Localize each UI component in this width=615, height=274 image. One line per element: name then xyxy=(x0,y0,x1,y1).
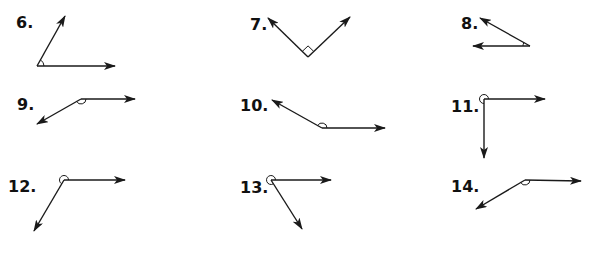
angle-figure-13 xyxy=(267,176,332,230)
angle-figure-6 xyxy=(37,16,115,66)
ray-arrow xyxy=(37,16,65,66)
problem-number-8: 8. xyxy=(461,16,478,32)
problem-number-10: 10. xyxy=(240,98,268,114)
angle-arc-marker xyxy=(318,123,327,128)
problem-number-13: 13. xyxy=(240,180,268,196)
angle-diagrams-canvas xyxy=(0,0,615,274)
angle-arc-marker xyxy=(521,180,530,185)
ray-arrow xyxy=(308,17,350,57)
angle-exercise-sheet: 6. 7. 8. 9. 10. 11. 12. 13. 14. xyxy=(0,0,615,274)
angle-figure-9 xyxy=(37,99,135,124)
ray-arrow xyxy=(272,100,322,128)
angle-figure-8 xyxy=(473,18,530,46)
ray-arrow xyxy=(480,18,530,46)
angle-figure-11 xyxy=(480,95,546,159)
problem-number-12: 12. xyxy=(8,179,36,195)
ray-arrow xyxy=(476,180,525,209)
angle-figure-12 xyxy=(34,176,125,231)
ray-arrow xyxy=(268,18,308,57)
ray-arrow xyxy=(271,180,302,229)
problem-number-7: 7. xyxy=(250,17,267,33)
problem-number-6: 6. xyxy=(16,15,33,31)
angle-arc-marker xyxy=(77,99,86,104)
ray-arrow xyxy=(525,180,581,181)
angle-arc-marker xyxy=(40,60,44,66)
problem-number-9: 9. xyxy=(17,97,34,113)
ray-arrow xyxy=(37,99,81,124)
angle-figure-7 xyxy=(268,17,350,57)
problem-number-11: 11. xyxy=(451,99,479,115)
ray-arrow xyxy=(34,180,64,231)
right-angle-marker xyxy=(302,46,314,52)
angle-figure-14 xyxy=(476,180,581,209)
problem-number-14: 14. xyxy=(451,179,479,195)
angle-figure-10 xyxy=(272,100,385,128)
